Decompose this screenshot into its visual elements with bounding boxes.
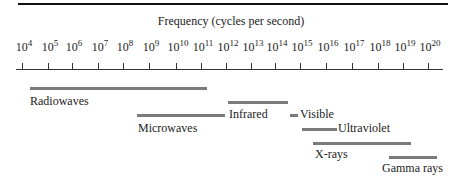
band-label-radiowaves: Radiowaves [30, 94, 89, 108]
axis-line [16, 69, 443, 70]
band-bar-microwaves [137, 114, 225, 117]
tick-label: 1018 [370, 40, 391, 54]
tick-label-exponent: 12 [230, 38, 239, 48]
tick-label-base: 10 [420, 40, 432, 54]
tick-label-base: 10 [344, 40, 356, 54]
tick-label-exponent: 18 [382, 38, 391, 48]
band-label-x-rays: X-rays [315, 147, 348, 161]
tick-label-base: 10 [143, 40, 155, 54]
tick-label-exponent: 9 [155, 38, 160, 48]
tick-label-base: 10 [42, 40, 54, 54]
tick-label-base: 10 [318, 40, 330, 54]
tick-label-base: 10 [395, 40, 407, 54]
tick-label-exponent: 13 [255, 38, 264, 48]
tick-label: 104 [16, 40, 33, 54]
band-label-visible: Visible [300, 107, 334, 121]
tick-label-base: 10 [292, 40, 304, 54]
tick-label-exponent: 20 [432, 38, 441, 48]
tick-label: 109 [143, 40, 160, 54]
tick-label: 107 [92, 40, 109, 54]
tick-label-exponent: 15 [304, 38, 313, 48]
band-bar-gamma-rays [389, 156, 437, 159]
tick-label: 106 [66, 40, 83, 54]
tick-label-base: 10 [243, 40, 255, 54]
band-bar-infrared [228, 101, 288, 104]
tick-label-base: 10 [66, 40, 78, 54]
band-label-infrared: Infrared [229, 107, 268, 121]
tick-label-exponent: 6 [78, 38, 83, 48]
tick-label-base: 10 [267, 40, 279, 54]
tick-label: 1016 [318, 40, 339, 54]
tick-label: 1011 [193, 40, 214, 54]
band-label-gamma-rays: Gamma rays [382, 161, 443, 175]
tick-label: 1015 [292, 40, 313, 54]
tick-label: 108 [117, 40, 134, 54]
band-bar-radiowaves [30, 87, 207, 90]
tick-label: 1020 [420, 40, 441, 54]
tick-label: 1013 [243, 40, 264, 54]
band-label-microwaves: Microwaves [138, 121, 197, 135]
tick-label-base: 10 [117, 40, 129, 54]
tick-label-exponent: 7 [104, 38, 109, 48]
tick-label: 1019 [395, 40, 416, 54]
tick-label-base: 10 [193, 40, 205, 54]
tick-label: 1017 [344, 40, 365, 54]
tick-label-base: 10 [92, 40, 104, 54]
tick-label-exponent: 19 [407, 38, 416, 48]
band-bar-ultraviolet [302, 128, 337, 131]
tick-label-exponent: 5 [54, 38, 59, 48]
tick-label-base: 10 [218, 40, 230, 54]
tick-label: 1010 [168, 40, 189, 54]
tick-label-base: 10 [370, 40, 382, 54]
tick-label-exponent: 11 [205, 38, 214, 48]
band-bar-visible [290, 114, 298, 117]
tick-label-exponent: 16 [330, 38, 339, 48]
tick-label: 1014 [267, 40, 288, 54]
tick-label-base: 10 [168, 40, 180, 54]
tick-label: 105 [42, 40, 59, 54]
tick-label-exponent: 14 [279, 38, 288, 48]
top-rule [18, 3, 448, 5]
axis-title: Frequency (cycles per second) [0, 14, 462, 28]
tick-label-exponent: 8 [129, 38, 134, 48]
tick-label-exponent: 4 [28, 38, 33, 48]
tick-label-base: 10 [16, 40, 28, 54]
tick-label: 1012 [218, 40, 239, 54]
band-bar-x-rays [313, 142, 411, 145]
tick-label-exponent: 10 [180, 38, 189, 48]
tick-label-exponent: 17 [356, 38, 365, 48]
band-label-ultraviolet: Ultraviolet [338, 121, 390, 135]
